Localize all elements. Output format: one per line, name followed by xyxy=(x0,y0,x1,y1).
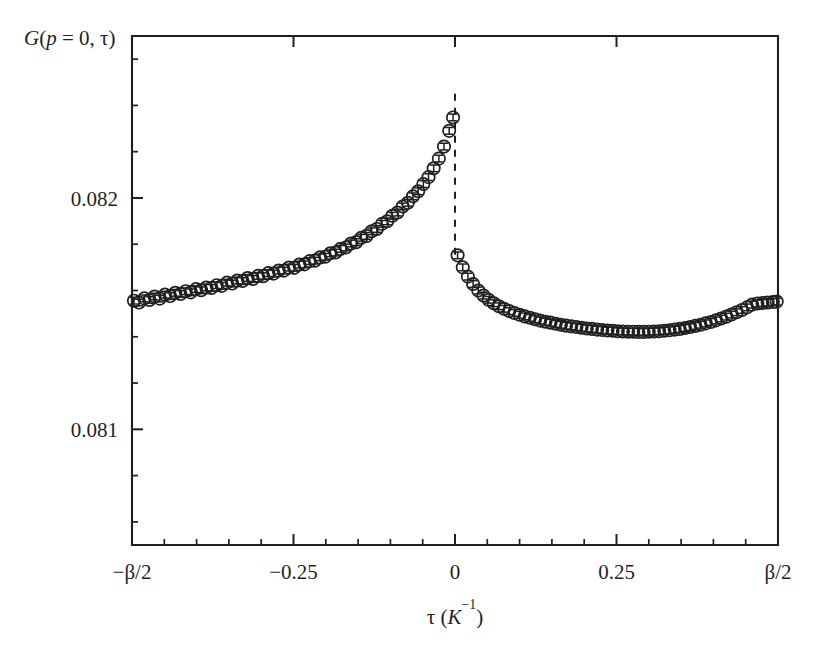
green-function-plot: −β/2−0.2500.25β/2 0.0810.082 G(p = 0, τ)… xyxy=(0,0,828,657)
x-tick-label: −0.25 xyxy=(269,560,318,584)
x-tick-label: 0.25 xyxy=(598,560,635,584)
y-axis-label: G(p = 0, τ) xyxy=(24,26,115,50)
y-tick-label: 0.081 xyxy=(71,418,118,442)
y-tick-label: 0.082 xyxy=(71,187,118,211)
x-tick-label: −β/2 xyxy=(113,560,152,584)
x-tick-label: β/2 xyxy=(764,560,791,584)
x-tick-label: 0 xyxy=(450,560,461,584)
figure-container: −β/2−0.2500.25β/2 0.0810.082 G(p = 0, τ)… xyxy=(0,0,828,657)
